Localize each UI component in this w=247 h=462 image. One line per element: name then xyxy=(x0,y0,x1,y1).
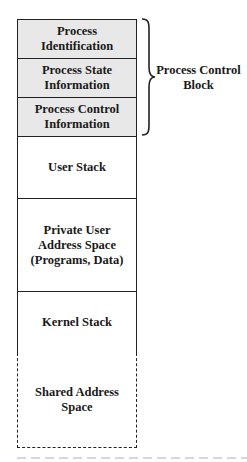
section-label: User Stack xyxy=(48,160,106,175)
section-process-state-information: Process State Information xyxy=(17,58,137,98)
section-kernel-stack: Kernel Stack xyxy=(17,291,137,354)
section-process-control-information: Process Control Information xyxy=(17,97,137,137)
section-label: Shared Address Space xyxy=(35,385,119,415)
section-label: Process State Information xyxy=(42,63,112,93)
process-control-block-label: Process Control Block xyxy=(150,63,247,93)
section-private-user-address-space: Private User Address Space (Programs, Da… xyxy=(17,198,137,292)
section-shared-address-space: Shared Address Space xyxy=(17,353,137,448)
figure-caption-clipped xyxy=(17,455,247,462)
section-label: Kernel Stack xyxy=(42,315,112,330)
section-label: Process Control Information xyxy=(35,102,120,132)
section-label: Process Identification xyxy=(41,24,113,54)
caption-fragment xyxy=(17,457,247,459)
section-user-stack: User Stack xyxy=(17,136,137,199)
section-label: Private User Address Space (Programs, Da… xyxy=(31,223,124,268)
section-process-identification: Process Identification xyxy=(17,19,137,59)
